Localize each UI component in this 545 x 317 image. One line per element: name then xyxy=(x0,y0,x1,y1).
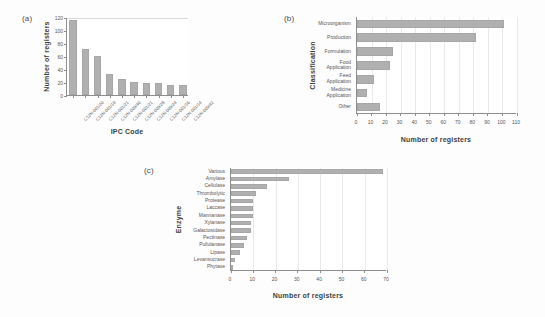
panel-c-bar xyxy=(231,184,267,189)
panel-a-y-tick-label: 120 xyxy=(53,15,63,21)
panel-c-gridline xyxy=(387,168,388,270)
panel-c-x-tick xyxy=(342,270,343,273)
chart-panel-c: (c) Enzyme Number of registers 010203040… xyxy=(130,152,430,317)
panel-a-label: (a) xyxy=(22,14,32,23)
panel-a-y-tick xyxy=(64,96,67,97)
panel-b-x-tick xyxy=(386,113,387,116)
panel-b-gridline xyxy=(459,17,460,113)
panel-c-bar xyxy=(231,243,244,248)
panel-c-gridline xyxy=(320,168,321,270)
panel-a-bar xyxy=(118,79,126,95)
panel-b-gridline xyxy=(444,17,445,113)
panel-a-x-tick xyxy=(85,95,86,98)
panel-b-x-tick xyxy=(444,113,445,116)
panel-c-plot-area xyxy=(230,168,386,271)
panel-c-x-tick-label: 70 xyxy=(378,276,394,282)
panel-b-bar xyxy=(357,75,374,84)
panel-b-x-tick-label: 110 xyxy=(508,119,524,125)
panel-c-x-tick xyxy=(320,270,321,273)
panel-c-x-tick-label: 30 xyxy=(289,276,305,282)
panel-a-bar xyxy=(130,82,138,95)
panel-b-category-label: Production xyxy=(272,35,351,41)
panel-a-x-tick xyxy=(146,95,147,98)
panel-a-x-tick xyxy=(183,95,184,98)
chart-panel-a: (a) Number of registers IPC Code 0204060… xyxy=(0,0,265,152)
panel-b-x-tick xyxy=(357,113,358,116)
panel-b-bar xyxy=(357,47,393,56)
panel-a-bar xyxy=(82,49,90,95)
panel-b-category-label: Other xyxy=(272,104,351,110)
panel-c-gridline xyxy=(365,168,366,270)
panel-a-plot-area xyxy=(66,18,188,96)
panel-b-x-tick xyxy=(429,113,430,116)
panel-a-x-tick xyxy=(98,95,99,98)
panel-c-category-label: Phytase xyxy=(130,264,225,270)
panel-c-x-tick xyxy=(231,270,232,273)
panel-c-category-label: Mannanase xyxy=(130,213,225,219)
panel-c-x-tick-label: 20 xyxy=(267,276,283,282)
panel-c-category-label: Amylase xyxy=(130,176,225,182)
panel-c-x-tick xyxy=(387,270,388,273)
figure-canvas: (a) Number of registers IPC Code 0204060… xyxy=(0,0,545,317)
panel-a-y-tick-label: 40 xyxy=(53,67,63,73)
panel-a-bar xyxy=(106,74,114,95)
panel-c-category-label: Protease xyxy=(130,198,225,204)
panel-c-bar xyxy=(231,258,235,263)
panel-b-x-tick xyxy=(400,113,401,116)
panel-b-category-label: Microorganism xyxy=(272,21,351,27)
panel-c-x-tick xyxy=(364,270,365,273)
panel-c-category-label: Thrombolytic xyxy=(130,191,225,197)
panel-b-x-tick xyxy=(487,113,488,116)
panel-c-bar xyxy=(231,177,289,182)
panel-c-x-tick-label: 40 xyxy=(311,276,327,282)
panel-c-bar xyxy=(231,206,253,211)
panel-b-bar xyxy=(357,103,380,112)
panel-a-x-tick xyxy=(171,95,172,98)
panel-b-x-tick xyxy=(502,113,503,116)
panel-a-y-axis-title: Number of registers xyxy=(43,17,50,97)
panel-b-category-label: Formulation xyxy=(272,49,351,55)
panel-a-y-tick-label: 20 xyxy=(53,80,63,86)
panel-a-bar xyxy=(94,56,102,95)
panel-b-x-tick xyxy=(458,113,459,116)
panel-b-x-axis-title: Number of registers xyxy=(356,136,516,143)
panel-b-bar xyxy=(357,61,390,70)
panel-b-x-tick xyxy=(415,113,416,116)
panel-b-bar xyxy=(357,89,367,98)
panel-c-category-label: Pectinase xyxy=(130,235,225,241)
panel-c-category-label: Cellulase xyxy=(130,183,225,189)
panel-a-y-tick-label: 0 xyxy=(53,93,63,99)
panel-a-y-tick xyxy=(64,57,67,58)
panel-a-bar xyxy=(155,83,163,95)
panel-a-y-tick xyxy=(64,31,67,32)
panel-b-gridline xyxy=(401,17,402,113)
panel-c-bar xyxy=(231,250,240,255)
panel-c-x-tick-label: 0 xyxy=(222,276,238,282)
panel-a-x-tick xyxy=(159,95,160,98)
panel-c-category-label: Various xyxy=(130,169,225,175)
panel-a-x-tick xyxy=(134,95,135,98)
panel-c-x-axis-title: Number of registers xyxy=(230,292,386,299)
panel-a-y-tick xyxy=(64,44,67,45)
panel-b-x-tick xyxy=(473,113,474,116)
panel-a-bar xyxy=(179,85,187,95)
panel-a-y-tick-label: 100 xyxy=(53,28,63,34)
panel-b-gridline xyxy=(517,17,518,113)
panel-c-category-label: Pullulanase xyxy=(130,242,225,248)
panel-a-y-tick-label: 80 xyxy=(53,41,63,47)
panel-a-y-tick-label: 60 xyxy=(53,54,63,60)
panel-b-category-label: MedicineApplication xyxy=(272,87,351,99)
panel-c-bar xyxy=(231,191,256,196)
panel-c-gridline xyxy=(298,168,299,270)
panel-a-y-tick xyxy=(64,83,67,84)
panel-c-x-tick-label: 60 xyxy=(356,276,372,282)
panel-c-bar xyxy=(231,221,251,226)
panel-c-bar xyxy=(231,169,383,174)
panel-c-gridline xyxy=(342,168,343,270)
panel-c-bar xyxy=(231,199,253,204)
panel-c-x-tick xyxy=(275,270,276,273)
panel-c-category-label: Laccase xyxy=(130,205,225,211)
panel-c-category-label: Galactosidase xyxy=(130,228,225,234)
panel-a-x-tick xyxy=(73,95,74,98)
panel-b-category-label: FeedApplication xyxy=(272,73,351,85)
